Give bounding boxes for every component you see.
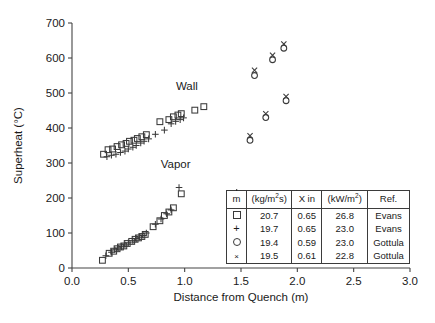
legend-symbol-cross: × — [234, 253, 239, 261]
plot-area: 01002003004005006007000.00.51.01.52.02.5… — [0, 0, 435, 323]
legend-cell-symbol: + — [227, 222, 247, 236]
y-tick-label: 300 — [46, 157, 65, 169]
legend-cell-symbol — [227, 236, 247, 250]
legend-cell-massflux: 19.7 — [247, 222, 292, 236]
legend-header-heatflux: (kW/m2) — [322, 191, 368, 208]
x-tick-label: 0.0 — [64, 275, 80, 287]
legend-cell-massflux: 19.5 — [247, 249, 292, 263]
y-tick-label: 700 — [46, 17, 65, 29]
legend-symbol-plus: + — [233, 224, 239, 232]
superscript: 2 — [275, 192, 279, 199]
x-tick-label: 2.0 — [289, 275, 305, 287]
x-tick-label: 1.0 — [177, 275, 193, 287]
legend-header-row: m(kg/m2s)X in(kW/m2)Ref. — [227, 191, 409, 208]
legend-cell-ref: Evans — [368, 208, 409, 222]
legend-cell-massflux: 20.7 — [247, 208, 292, 222]
legend-cell-heatflux: 22.8 — [322, 249, 368, 263]
x-tick-label: 3.0 — [402, 275, 418, 287]
legend-row: 19.40.5923.0Gottula — [227, 236, 409, 250]
legend-cell-xin: 0.65 — [292, 208, 322, 222]
legend-cell-xin: 0.65 — [292, 222, 322, 236]
y-tick-label: 0 — [59, 262, 65, 274]
x-tick-label: 2.5 — [346, 275, 362, 287]
y-tick-label: 200 — [46, 192, 65, 204]
annotation-wall: Wall — [176, 80, 198, 92]
annotation-vapor: Vapor — [161, 158, 191, 170]
legend-cell-symbol: × — [227, 249, 247, 263]
series-Gottula-cross — [238, 41, 288, 204]
legend-symbol-square — [233, 211, 241, 219]
legend-row: ×19.50.6122.8Gottula — [227, 249, 409, 263]
legend-cell-ref: Evans — [368, 222, 409, 236]
legend-header-xin: X in — [292, 191, 322, 208]
legend-row: +19.70.6523.0Evans — [227, 222, 409, 236]
legend-table: m(kg/m2s)X in(kW/m2)Ref.20.70.6526.8Evan… — [227, 191, 409, 263]
legend-header-massflux: (kg/m2s) — [247, 191, 292, 208]
superscript: 2 — [355, 192, 359, 199]
y-tick-label: 400 — [46, 122, 65, 134]
marker-square — [192, 107, 198, 113]
marker-square — [100, 257, 106, 263]
legend-cell-heatflux: 26.8 — [322, 208, 368, 222]
y-tick-label: 600 — [46, 52, 65, 64]
legend-cell-massflux: 19.4 — [247, 236, 292, 250]
legend-row: 20.70.6526.8Evans — [227, 208, 409, 222]
series-Evans-plus-vapor — [103, 184, 183, 259]
legend-cell-xin: 0.59 — [292, 236, 322, 250]
x-tick-label: 1.5 — [233, 275, 249, 287]
legend-cell-ref: Gottula — [368, 249, 409, 263]
y-tick-label: 500 — [46, 87, 65, 99]
legend-cell-heatflux: 23.0 — [322, 236, 368, 250]
legend-panel: m(kg/m2s)X in(kW/m2)Ref.20.70.6526.8Evan… — [226, 190, 410, 264]
x-tick-label: 0.5 — [120, 275, 136, 287]
y-tick-label: 100 — [46, 227, 65, 239]
series-Gottula-circle — [238, 45, 289, 209]
legend-cell-xin: 0.61 — [292, 249, 322, 263]
legend-header-ref: Ref. — [368, 191, 409, 208]
marker-square — [178, 191, 184, 197]
legend-cell-symbol — [227, 208, 247, 222]
series-Evans-square-wall — [101, 104, 207, 157]
x-axis-title: Distance from Quench (m) — [174, 291, 309, 303]
legend-cell-ref: Gottula — [368, 236, 409, 250]
legend-cell-heatflux: 23.0 — [322, 222, 368, 236]
marker-circle — [252, 73, 258, 79]
y-axis-title: Superheat (°C) — [12, 107, 24, 184]
legend-symbol-circle — [233, 238, 241, 246]
legend-header-symbol: m — [227, 191, 247, 208]
marker-square — [157, 119, 163, 125]
marker-square — [201, 104, 207, 110]
scatter-chart-figure: 01002003004005006007000.00.51.01.52.02.5… — [0, 0, 435, 323]
